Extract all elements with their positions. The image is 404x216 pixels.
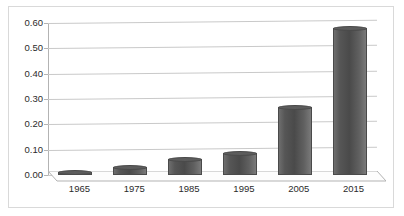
x-axis-tick-label: 1975 <box>107 183 162 195</box>
bar-top-cap <box>223 151 257 156</box>
bar[interactable] <box>278 107 312 175</box>
y-axis-tick-label: 0.10 <box>9 145 43 155</box>
plot-wrap: 0.000.100.200.300.400.500.60 19651975198… <box>9 7 393 207</box>
x-axis-labels: 196519751985199520052015 <box>48 183 386 199</box>
bar[interactable] <box>113 167 147 175</box>
bar[interactable] <box>168 159 202 175</box>
bar-slot <box>267 23 322 175</box>
x-axis-tick-label: 2015 <box>326 183 381 195</box>
bar-slot <box>48 23 103 175</box>
bars-layer <box>48 23 377 175</box>
bar-slot <box>322 23 377 175</box>
bar[interactable] <box>333 28 367 175</box>
bar-slot <box>213 23 268 175</box>
x-axis-tick-label: 1995 <box>217 183 272 195</box>
bar-top-cap <box>333 26 367 31</box>
y-axis-tick-label: 0.50 <box>9 43 43 53</box>
x-axis-tick-label: 1965 <box>52 183 107 195</box>
bar[interactable] <box>58 172 92 175</box>
y-axis-tick-label: 0.60 <box>9 18 43 28</box>
y-axis-tick-label: 0.20 <box>9 119 43 129</box>
bar-slot <box>103 23 158 175</box>
bar[interactable] <box>223 153 257 175</box>
bar-slot <box>158 23 213 175</box>
y-axis-tick-label: 0.00 <box>9 170 43 180</box>
y-axis-tick-label: 0.40 <box>9 69 43 79</box>
y-axis-tick-label: 0.30 <box>9 94 43 104</box>
bar-top-cap <box>278 105 312 110</box>
chart-frame: 0.000.100.200.300.400.500.60 19651975198… <box>8 6 394 208</box>
bar-top-cap <box>58 170 92 175</box>
bar-top-cap <box>168 157 202 162</box>
bar-top-cap <box>113 165 147 170</box>
x-axis-tick-label: 1985 <box>162 183 217 195</box>
x-axis-tick-label: 2005 <box>271 183 326 195</box>
